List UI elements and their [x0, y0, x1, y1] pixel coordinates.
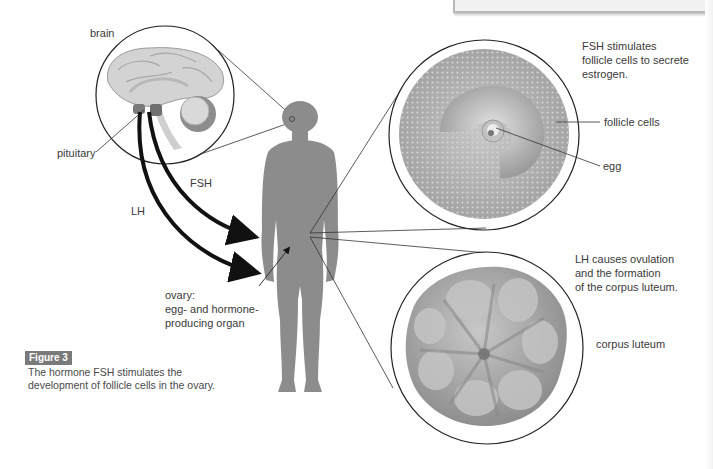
fsh-note: FSH stimulates follicle cells to secrete… [582, 39, 689, 81]
figure-number-badge: Figure 3 [25, 351, 72, 365]
lh-note: LH causes ovulation and the formation of… [575, 252, 678, 294]
ovary-label-line3: producing organ [165, 316, 259, 330]
fsh-note-line1: FSH stimulates [582, 39, 689, 53]
fsh-note-line2: follicle cells to secrete [582, 53, 689, 67]
brain-label: brain [90, 26, 114, 40]
figure-caption-line2: development of follicle cells in the ova… [28, 379, 258, 392]
follicle-inset [389, 40, 579, 230]
lh-note-line2: and the formation [575, 266, 678, 280]
lh-note-line1: LH causes ovulation [575, 252, 678, 266]
pituitary-label: pituitary [57, 146, 96, 160]
fsh-label: FSH [190, 176, 212, 190]
figure-caption-line1: The hormone FSH stimulates the [28, 366, 258, 379]
egg-label: egg [603, 159, 621, 173]
ovary-label-line1: ovary: [165, 288, 259, 302]
ovary-label: ovary: egg- and hormone- producing organ [165, 288, 259, 330]
human-body-silhouette [261, 101, 338, 392]
lh-label: LH [131, 204, 145, 218]
brain-inset [96, 26, 234, 164]
ovary-label-line2: egg- and hormone- [165, 302, 259, 316]
fsh-note-line3: estrogen. [582, 67, 689, 81]
figure-caption: The hormone FSH stimulates the developme… [28, 366, 258, 392]
cerebrum-icon [107, 48, 223, 107]
follicle-cells-label: follicle cells [604, 115, 660, 129]
corpus-luteum-inset [391, 252, 583, 444]
lh-note-line3: of the corpus luteum. [575, 280, 678, 294]
corpus-luteum-label: corpus luteum [596, 337, 665, 351]
